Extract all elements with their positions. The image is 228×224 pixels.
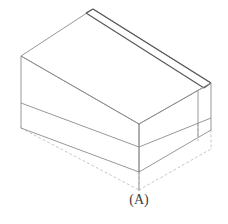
tape-seam-upper-line (93, 9, 211, 83)
front-left-panel-group (21, 56, 139, 172)
figure-canvas: (A) (0, 0, 228, 224)
top-face-outline (21, 9, 211, 124)
tape-seam-left-cap (86, 9, 93, 13)
callout-label-text: (A) (129, 192, 148, 208)
carton-isometric-drawing (0, 0, 228, 224)
tape-seam-lower-line (86, 13, 204, 88)
top-face-group (21, 9, 211, 124)
hidden-edges-group (21, 124, 211, 190)
front-left-panel-outline (21, 56, 139, 172)
hidden-bottom-right-edge (139, 149, 211, 190)
right-band-line (139, 118, 211, 147)
hidden-bottom-left-edge (21, 128, 139, 190)
top-tape-seam-group (86, 9, 211, 88)
callout-label-A: (A) (0, 192, 228, 208)
right-panel-group (139, 83, 211, 172)
front-left-band-line (21, 103, 139, 147)
right-panel-outline (139, 83, 211, 172)
